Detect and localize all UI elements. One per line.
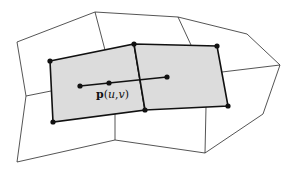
left-face [50, 44, 145, 122]
shaded-patch [50, 44, 228, 122]
vertex [50, 119, 55, 124]
vertex [214, 43, 219, 48]
edge-top-right-inner [178, 17, 191, 45]
right-face-center-point [164, 74, 169, 79]
left-face-center-point [77, 83, 82, 88]
sample-point-p [106, 80, 111, 85]
diagram-svg: p(u,v) [0, 0, 295, 170]
mesh-diagram: p(u,v) [0, 0, 295, 170]
right-face [134, 44, 228, 110]
vertex [131, 41, 136, 46]
point-label: p(u,v) [96, 88, 129, 101]
vertex [142, 107, 147, 112]
edge-bottom-right-inner [205, 107, 206, 153]
edge-top-left-inner [95, 12, 105, 50]
vertex [47, 58, 52, 63]
edge-right-inner [222, 65, 280, 72]
vertex [225, 103, 230, 108]
edge-left-inner [26, 91, 51, 96]
